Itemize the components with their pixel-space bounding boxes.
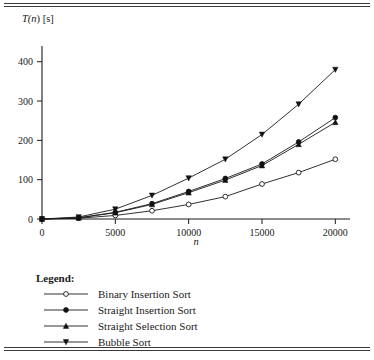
filled-triangle-up-marker — [42, 319, 90, 333]
x-tick-label: 0 — [40, 227, 45, 238]
x-tick-label: 5000 — [105, 227, 125, 238]
open-circle-marker — [42, 287, 90, 301]
series-line — [42, 70, 335, 219]
legend-item: Straight Insertion Sort — [36, 302, 336, 318]
legend-title: Legend: — [36, 272, 336, 284]
y-axis-ticks — [37, 62, 42, 219]
data-point — [260, 182, 265, 187]
data-point — [259, 132, 264, 137]
y-tick-label: 0 — [28, 214, 33, 225]
legend: Legend: Binary Insertion SortStraight In… — [36, 272, 336, 350]
x-tick-label: 20000 — [323, 227, 348, 238]
series-bubble-sort — [39, 67, 338, 222]
legend-marker — [64, 292, 69, 297]
y-tick-label: 300 — [18, 96, 33, 107]
bottom-rule — [4, 347, 370, 348]
data-point — [296, 170, 301, 175]
data-point — [149, 193, 154, 198]
x-tick-label: 15000 — [250, 227, 275, 238]
data-point — [333, 119, 338, 124]
y-tick-label: 200 — [18, 135, 33, 146]
data-point — [186, 202, 191, 207]
filled-circle-marker — [42, 303, 90, 317]
y-axis: 0100200300400 — [18, 46, 42, 225]
data-series-group — [39, 67, 338, 222]
figure-container: T(n) [s] 0100200300400 05000100001500020… — [0, 0, 374, 360]
bottom-rule-secondary — [4, 350, 370, 351]
legend-rows: Binary Insertion SortStraight Insertion … — [36, 286, 336, 350]
legend-item-label: Binary Insertion Sort — [98, 288, 191, 300]
y-tick-label: 400 — [18, 56, 33, 67]
data-point — [150, 208, 155, 213]
data-point — [333, 157, 338, 162]
x-axis-ticks — [42, 219, 335, 224]
data-point — [186, 176, 191, 181]
x-axis: 05000100001500020000 n — [40, 219, 351, 247]
data-point — [223, 157, 228, 162]
legend-marker — [64, 308, 69, 313]
y-axis-tick-labels: 0100200300400 — [18, 56, 33, 224]
top-rule — [4, 3, 370, 4]
plot-area: T(n) [s] 0100200300400 05000100001500020… — [0, 8, 374, 268]
y-tick-label: 100 — [18, 174, 33, 185]
legend-item: Binary Insertion Sort — [36, 286, 336, 302]
data-point — [223, 194, 228, 199]
legend-item-label: Straight Selection Sort — [98, 320, 198, 332]
legend-item-label: Straight Insertion Sort — [98, 304, 196, 316]
x-axis-caption: n — [193, 236, 198, 247]
legend-item: Straight Selection Sort — [36, 318, 336, 334]
chart-plot: 0100200300400 05000100001500020000 n — [0, 8, 374, 268]
top-rule-secondary — [4, 6, 370, 7]
